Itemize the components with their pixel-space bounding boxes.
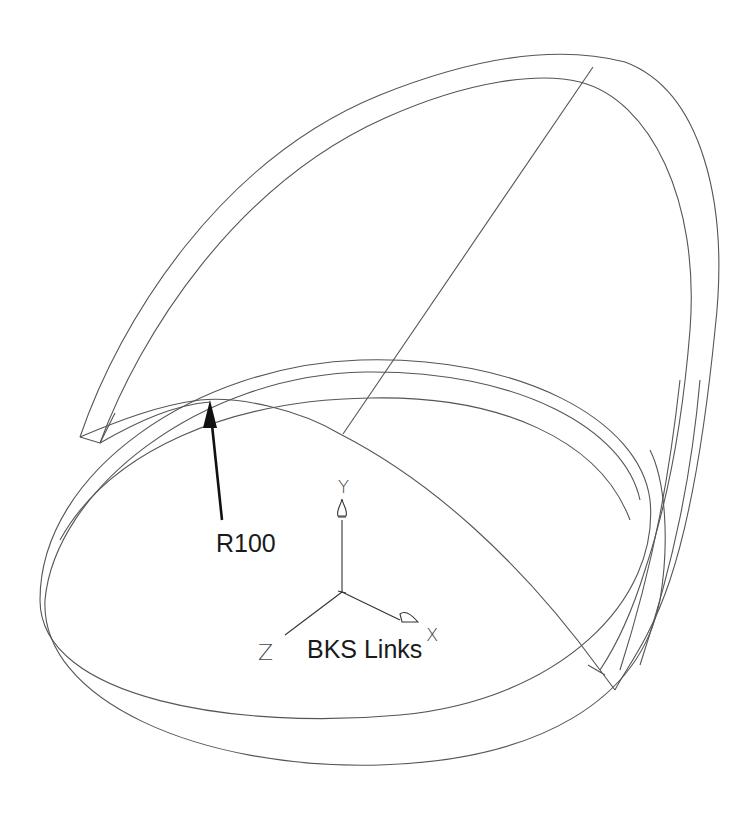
radius-label: R100 [216, 529, 276, 558]
right-side-band-2 [640, 380, 700, 665]
arch-inner-edge [100, 78, 691, 670]
radius-leader-line [212, 425, 222, 520]
arch-right-tip [588, 665, 615, 690]
drawing-canvas [0, 0, 737, 815]
meridian-line [343, 67, 593, 434]
y-axis-label: Y [338, 476, 349, 497]
base-ring-outer [40, 360, 651, 719]
radius-arrowhead-icon [203, 400, 217, 428]
z-axis-label: Z [258, 640, 273, 665]
ucs-label: BKS Links [307, 635, 422, 664]
x-axis-label: X [426, 624, 438, 645]
ucs-icon [285, 499, 418, 635]
